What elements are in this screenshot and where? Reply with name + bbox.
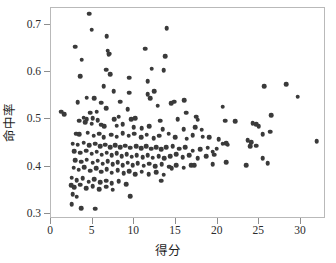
scatter-chart: 命中率 得分 0.30.40.50.60.7051015202530 [0, 0, 336, 263]
data-point [159, 147, 164, 152]
data-point [244, 163, 249, 168]
data-point [126, 133, 131, 138]
data-point [87, 143, 92, 148]
data-point [165, 26, 170, 31]
data-point [101, 84, 106, 89]
data-point [78, 150, 83, 155]
data-point [207, 135, 212, 140]
data-point [150, 156, 155, 161]
data-point [212, 152, 217, 157]
data-point [92, 96, 97, 101]
data-point [81, 140, 86, 145]
data-point [110, 162, 115, 167]
data-point [125, 152, 130, 157]
data-point [72, 185, 77, 190]
data-point [123, 143, 128, 148]
data-point [158, 119, 163, 124]
data-point [265, 161, 270, 166]
data-point [135, 153, 140, 158]
data-point [102, 124, 107, 129]
plot-area [50, 7, 325, 218]
data-point [134, 144, 139, 149]
data-point [175, 117, 180, 122]
data-point [71, 165, 76, 170]
data-point [133, 116, 138, 121]
data-point [93, 206, 98, 211]
data-point [216, 137, 221, 142]
data-point [195, 156, 200, 161]
data-point [248, 144, 253, 149]
data-point [268, 129, 273, 134]
data-point [133, 172, 138, 177]
data-point [110, 187, 115, 192]
data-point [113, 143, 118, 148]
data-point [147, 161, 152, 166]
data-point [181, 127, 186, 132]
data-point [183, 145, 188, 150]
data-point [150, 66, 155, 71]
data-point [127, 169, 132, 174]
data-point [173, 135, 178, 140]
y-tick-mark [44, 24, 50, 25]
data-point [118, 145, 123, 150]
data-point [80, 176, 85, 181]
y-tick-mark [44, 118, 50, 119]
data-point [147, 124, 152, 129]
data-point [140, 155, 145, 160]
data-point [166, 131, 171, 136]
data-point [159, 178, 164, 183]
data-point [118, 100, 123, 105]
data-point [269, 113, 274, 118]
data-point [154, 145, 159, 150]
data-point [121, 171, 126, 176]
data-point [220, 141, 225, 146]
y-tick-label: 0.5 [27, 112, 41, 124]
data-point [187, 153, 192, 158]
data-point [92, 177, 97, 182]
data-point [104, 184, 109, 189]
data-point [295, 94, 300, 99]
data-point [111, 89, 116, 94]
data-point [98, 180, 103, 185]
x-tick-label: 20 [211, 224, 223, 236]
data-point [146, 172, 151, 177]
x-tick-label: 0 [47, 224, 53, 236]
data-point [84, 186, 89, 191]
data-point [94, 166, 99, 171]
data-point [260, 156, 265, 161]
data-point [161, 68, 166, 73]
data-point [77, 119, 82, 124]
data-point [181, 165, 186, 170]
data-point [115, 168, 120, 173]
data-point [120, 122, 125, 127]
data-point [95, 110, 100, 115]
data-point [153, 164, 158, 169]
data-point [127, 91, 132, 96]
data-point [84, 148, 89, 153]
data-point [172, 100, 177, 105]
data-point [210, 162, 215, 167]
data-point [156, 154, 161, 159]
y-axis-label: 命中率 [0, 83, 18, 163]
data-point [99, 169, 104, 174]
data-point [145, 132, 150, 137]
data-point [108, 72, 113, 77]
data-point [127, 75, 132, 80]
data-point [254, 143, 259, 148]
data-point [72, 149, 77, 154]
data-point [185, 137, 190, 142]
data-point [177, 147, 182, 152]
data-point [104, 106, 109, 111]
data-point [163, 54, 168, 59]
data-point [115, 151, 120, 156]
data-point [124, 182, 129, 187]
data-point [193, 125, 198, 130]
data-point [120, 154, 125, 159]
data-point [116, 114, 121, 119]
data-points-layer [51, 8, 324, 217]
data-point [110, 153, 115, 158]
data-point [170, 166, 175, 171]
data-point [198, 147, 203, 152]
data-point [90, 184, 95, 189]
data-point [85, 157, 90, 162]
